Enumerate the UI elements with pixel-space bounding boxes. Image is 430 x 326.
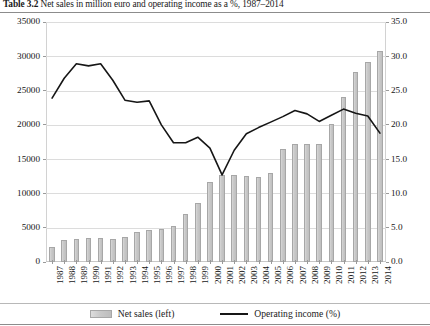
x-axis-tick-mark (271, 260, 272, 264)
x-axis-tick-mark (113, 260, 114, 264)
legend-label-operating-income: Operating income (%) (254, 309, 340, 319)
left-axis-tick-label: 0 (0, 257, 40, 266)
axis-tick-mark (43, 159, 46, 160)
x-axis-tick-mark (210, 260, 211, 264)
legend-divider-bottom (0, 324, 430, 325)
axis-tick-mark (43, 193, 46, 194)
x-axis-tick-mark (186, 260, 187, 264)
caption-number: Table 3.2 (3, 0, 38, 9)
bar-swatch-icon (90, 310, 112, 318)
x-axis-tick-label: 2010 (335, 266, 344, 284)
x-axis-tick-label: 2007 (299, 266, 308, 284)
x-axis-tick-mark (234, 260, 235, 264)
line-series-operating-income (46, 22, 386, 262)
axis-tick-mark (386, 193, 389, 194)
axis-tick-mark (386, 124, 389, 125)
axis-tick-mark (386, 90, 389, 91)
x-axis-tick-label: 1997 (177, 266, 186, 284)
x-axis-tick-mark (259, 260, 260, 264)
left-axis-tick-label: 10000 (0, 189, 40, 198)
x-axis-tick-label: 1995 (153, 266, 162, 284)
x-axis-tick-label: 2014 (384, 266, 393, 284)
x-axis-tick-mark (319, 260, 320, 264)
x-axis-tick-mark (89, 260, 90, 264)
x-axis-tick-label: 2003 (250, 266, 259, 284)
axis-tick-mark (43, 90, 46, 91)
x-axis-tick-label: 2002 (238, 266, 247, 284)
legend-item-operating-income: Operating income (%) (220, 309, 340, 319)
left-axis-tick-label: 30000 (0, 52, 40, 61)
axis-tick-mark (43, 22, 46, 23)
x-axis-tick-label: 2006 (286, 266, 295, 284)
x-axis-tick-mark (356, 260, 357, 264)
right-axis-tick-label: 30.0 (391, 52, 407, 61)
x-axis-tick-label: 1991 (104, 266, 113, 284)
x-axis-tick-mark (344, 260, 345, 264)
axis-tick-mark (386, 262, 389, 263)
x-axis-tick-mark (161, 260, 162, 264)
x-axis-tick-mark (76, 260, 77, 264)
x-axis-tick-label: 1989 (80, 266, 89, 284)
right-axis-tick-label: 15.0 (391, 155, 407, 164)
x-axis-tick-label: 2012 (359, 266, 368, 284)
x-axis-tick-label: 2009 (323, 266, 332, 284)
right-axis-tick-label: 20.0 (391, 120, 407, 129)
x-axis-tick-mark (307, 260, 308, 264)
x-axis-ticks: 1987198819891990199119921993199419951996… (46, 264, 386, 304)
x-axis-tick-mark (125, 260, 126, 264)
x-axis-tick-mark (101, 260, 102, 264)
left-axis-tick-label: 5000 (0, 223, 40, 232)
left-axis-tick-label: 20000 (0, 120, 40, 129)
x-axis-tick-label: 1988 (68, 266, 77, 284)
x-axis-tick-mark (52, 260, 53, 264)
legend-item-net-sales: Net sales (left) (90, 309, 174, 319)
plot-area (46, 22, 386, 262)
x-axis-tick-label: 1992 (116, 266, 125, 284)
axis-tick-mark (386, 227, 389, 228)
line-swatch-icon (220, 313, 248, 315)
x-axis-tick-mark (295, 260, 296, 264)
x-axis-tick-mark (137, 260, 138, 264)
caption-divider (0, 12, 430, 13)
legend-label-net-sales: Net sales (left) (118, 309, 174, 319)
x-axis-tick-label: 1999 (201, 266, 210, 284)
x-axis-tick-label: 1990 (92, 266, 101, 284)
x-axis-tick-mark (331, 260, 332, 264)
x-axis-tick-mark (174, 260, 175, 264)
x-axis-tick-mark (368, 260, 369, 264)
axis-tick-mark (43, 262, 46, 263)
figure-caption: Table 3.2 Net sales in million euro and … (0, 0, 430, 12)
axis-tick-mark (386, 22, 389, 23)
left-axis-tick-label: 15000 (0, 155, 40, 164)
right-axis-tick-label: 25.0 (391, 86, 407, 95)
x-axis-tick-label: 1993 (129, 266, 138, 284)
caption-text: Net sales in million euro and operating … (40, 0, 283, 9)
x-axis-tick-mark (380, 260, 381, 264)
x-axis-tick-label: 1987 (56, 266, 65, 284)
x-axis-tick-label: 2011 (347, 266, 356, 284)
left-axis-tick-label: 35000 (0, 17, 40, 26)
chart-legend: Net sales (left) Operating income (%) (0, 303, 430, 324)
axis-tick-mark (386, 159, 389, 160)
x-axis-tick-label: 2005 (274, 266, 283, 284)
figure-container: Table 3.2 Net sales in million euro and … (0, 0, 430, 326)
x-axis-tick-mark (64, 260, 65, 264)
x-axis-tick-mark (246, 260, 247, 264)
right-axis-tick-label: 35.0 (391, 17, 407, 26)
axis-tick-mark (43, 56, 46, 57)
left-axis-tick-label: 25000 (0, 86, 40, 95)
x-axis-tick-label: 2001 (226, 266, 235, 284)
axis-tick-mark (386, 56, 389, 57)
x-axis-tick-label: 2004 (262, 266, 271, 284)
x-axis-tick-label: 2000 (214, 266, 223, 284)
axis-tick-mark (43, 124, 46, 125)
x-axis-tick-mark (149, 260, 150, 264)
x-axis-tick-label: 1998 (189, 266, 198, 284)
axis-tick-mark (43, 227, 46, 228)
x-axis-tick-label: 2008 (311, 266, 320, 284)
x-axis-tick-mark (222, 260, 223, 264)
x-axis-tick-label: 2013 (371, 266, 380, 284)
right-axis-tick-label: 10.0 (391, 189, 407, 198)
right-axis-tick-label: 5.0 (391, 223, 402, 232)
x-axis-tick-label: 1996 (165, 266, 174, 284)
